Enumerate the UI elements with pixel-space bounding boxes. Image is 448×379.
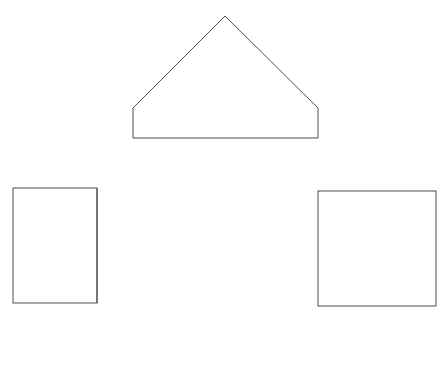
roof-correlation-matrix [133,16,318,138]
technical-targets-section [167,310,287,358]
roof-label-bg [172,85,280,131]
relationships-label-bg [178,212,275,278]
house-of-quality-diagram [0,0,448,379]
design-attributes-label-bg [172,144,280,184]
relationships-section [178,212,275,278]
technical-label-bg [167,310,287,358]
ranking-label [106,198,122,293]
customer-needs-label [22,222,90,270]
customer-needs-label-bg [22,222,90,270]
planning-matrix-label [322,226,428,276]
planning-label-bg [322,226,428,276]
design-attributes-section [172,144,280,184]
ranking-label-bg [106,198,122,293]
